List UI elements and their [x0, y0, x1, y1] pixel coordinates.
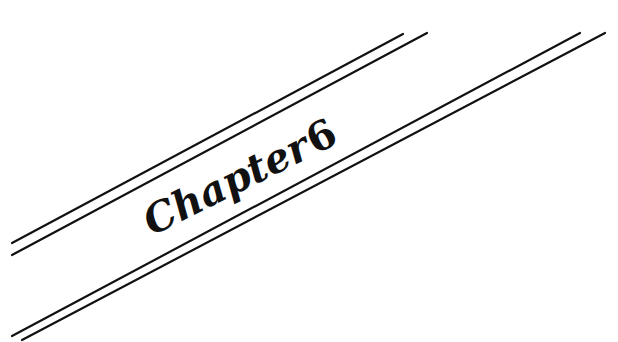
- chapter-title-banner: Chapter 6: [0, 0, 618, 342]
- upper-rule-pair: [12, 33, 427, 255]
- lower-rule-pair: [12, 33, 605, 340]
- upper-rule-inner: [12, 33, 427, 255]
- lower-rule-outer: [12, 33, 580, 336]
- lower-rule-inner: [22, 33, 605, 340]
